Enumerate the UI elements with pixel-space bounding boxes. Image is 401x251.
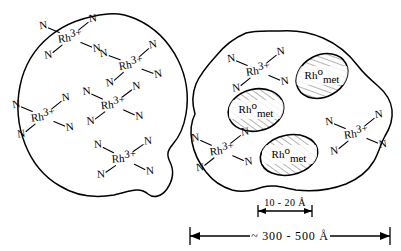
ligand-label: N — [374, 107, 384, 120]
ligand-label: N — [329, 144, 339, 157]
ligand-label: N — [276, 44, 286, 57]
arrowhead-left-icon — [258, 208, 266, 214]
cluster-scale-label: 10 - 20 Å — [264, 197, 306, 208]
ligand-label: N — [231, 81, 241, 94]
ligand-label: N — [135, 109, 144, 122]
ligand-label: N — [43, 48, 53, 61]
rh-charge: 3+ — [113, 93, 126, 106]
ligand-label: N — [94, 138, 103, 151]
rh-charge: 3+ — [124, 147, 137, 160]
ligand-label: N — [88, 11, 98, 24]
ligand-label: N — [61, 90, 71, 103]
ligand-label: N — [16, 127, 26, 140]
rh-subscript: met — [290, 152, 307, 164]
ligand-label: N — [82, 84, 91, 97]
rh-symbol: Rh — [305, 69, 318, 81]
rh-charge: 3+ — [130, 52, 144, 66]
ligand-label: N — [191, 131, 200, 144]
left-particle-group: N N N N Rh3+ N N N N Rh3+ — [11, 11, 187, 196]
rh-subscript: met — [257, 107, 274, 119]
rh-symbol: Rh — [239, 103, 252, 115]
ligand-label: N — [378, 137, 388, 150]
ligand-label: N — [97, 167, 106, 180]
rh-charge: 3+ — [42, 104, 55, 118]
figure-root: N N N N Rh3+ N N N N Rh3+ — [0, 0, 401, 251]
ligand-label: N — [65, 120, 75, 133]
rh-charge: 3+ — [355, 121, 368, 135]
rh-charge: 3+ — [257, 58, 270, 72]
ligand-label: N — [146, 164, 155, 177]
ligand-label: N — [86, 114, 95, 127]
ligand-label: N — [324, 114, 334, 127]
cluster-scale-bar: 10 - 20 Å — [258, 197, 312, 217]
ligand-label: N — [11, 97, 21, 110]
ligand-label: N — [226, 51, 236, 64]
ligand-label: N — [38, 18, 48, 31]
ligand-label: N — [132, 79, 141, 92]
right-particle-group: N N N N Rh3+ N N N N Rh3+ — [191, 31, 393, 191]
rh-charge: 3+ — [221, 139, 234, 152]
arrowhead-right-icon — [304, 208, 312, 214]
particle-scale-bar: ~ 300 - 500 Å — [190, 227, 390, 245]
rh-charge: 3+ — [69, 25, 82, 39]
ligand-label: N — [143, 134, 152, 147]
arrowhead-left-icon — [190, 232, 200, 240]
rh-subscript: met — [323, 73, 340, 85]
particle-scale-label: ~ 300 - 500 Å — [251, 229, 329, 243]
ligand-label: N — [195, 160, 204, 173]
rh-symbol: Rh — [272, 148, 285, 160]
ligand-label: N — [280, 74, 290, 87]
arrowhead-right-icon — [380, 232, 390, 240]
diagram-canvas: N N N N Rh3+ N N N N Rh3+ — [0, 0, 401, 251]
ligand-label: N — [244, 154, 253, 167]
